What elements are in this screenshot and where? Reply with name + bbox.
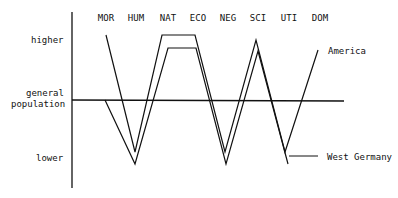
category-uti: UTI xyxy=(281,13,297,23)
category-mor: MOR xyxy=(98,13,114,23)
y-label-general: general xyxy=(26,88,64,98)
america-line xyxy=(106,35,318,152)
category-nat: NAT xyxy=(160,13,176,23)
west-germany-line xyxy=(105,48,288,164)
category-neg: NEG xyxy=(220,13,236,23)
category-hum: HUM xyxy=(128,13,144,23)
category-sci: SCI xyxy=(250,13,266,23)
category-eco: ECO xyxy=(190,13,206,23)
y-label-higher: higher xyxy=(31,35,64,45)
legend-america: America xyxy=(328,46,366,56)
category-dom: DOM xyxy=(312,13,328,23)
general-population-baseline xyxy=(72,100,344,101)
y-label-lower: lower xyxy=(36,153,63,163)
y-label-population: population xyxy=(11,99,65,109)
legend-west-germany: West Germany xyxy=(327,152,392,162)
